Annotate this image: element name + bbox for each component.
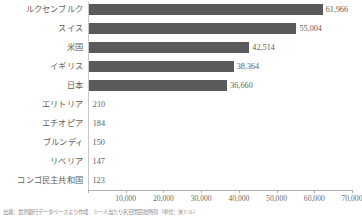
value-label: 38,364	[237, 57, 260, 76]
x-tick-mark	[277, 190, 278, 193]
x-tick-mark	[239, 190, 240, 193]
x-tick-mark	[314, 190, 315, 193]
bar	[89, 61, 234, 72]
bar	[89, 80, 227, 91]
value-label: 55,004	[299, 19, 322, 38]
bar-rows: ルクセンブルク61,966スイス55,004米国42,514イギリス38,364…	[0, 0, 360, 190]
x-tick-mark	[126, 190, 127, 193]
value-label: 123	[92, 171, 104, 190]
x-tick-mark	[352, 190, 353, 193]
category-label: イギリス	[0, 57, 83, 76]
bar-row: リベリア147	[0, 152, 360, 171]
plot-area: ルクセンブルク61,966スイス55,004米国42,514イギリス38,364…	[0, 0, 360, 190]
category-label: ブルンディ	[0, 133, 83, 152]
x-axis-ticks: 10,00020,00030,00040,00050,00060,00070,0…	[0, 190, 360, 206]
bar-row: ルクセンブルク61,966	[0, 0, 360, 19]
x-tick-label: 30,000	[191, 194, 212, 203]
x-tick-mark	[163, 190, 164, 193]
x-tick-label: 10,000	[115, 194, 136, 203]
category-label: ルクセンブルク	[0, 0, 83, 19]
category-label: エチオピア	[0, 114, 83, 133]
bar-row: ブルンディ150	[0, 133, 360, 152]
x-tick-label: 60,000	[304, 194, 325, 203]
category-label: エリトリア	[0, 95, 83, 114]
x-tick-mark	[88, 190, 89, 193]
bar-row: スイス55,004	[0, 19, 360, 38]
bar-row: イギリス38,364	[0, 57, 360, 76]
chart-footnote: 出典：世界銀行データベースより作成 ※一人当たり名目国民総所得（単位：米ドル）	[3, 208, 198, 216]
value-label: 36,660	[230, 76, 253, 95]
category-label: コンゴ民主共和国	[0, 171, 83, 190]
value-label: 42,514	[252, 38, 275, 57]
bar-row: 米国42,514	[0, 38, 360, 57]
bar-row: 日本36,660	[0, 76, 360, 95]
bar	[89, 4, 323, 15]
x-tick-mark	[201, 190, 202, 193]
category-label: 米国	[0, 38, 83, 57]
category-label: スイス	[0, 19, 83, 38]
category-label: リベリア	[0, 152, 83, 171]
bar	[89, 23, 296, 34]
bar	[89, 42, 249, 53]
value-label: 150	[93, 133, 105, 152]
category-label: 日本	[0, 76, 83, 95]
x-tick-label: 70,000	[342, 194, 362, 203]
bar-row: エチオピア184	[0, 114, 360, 133]
value-label: 147	[93, 152, 105, 171]
x-tick-label: 20,000	[153, 194, 174, 203]
bar-row: エリトリア210	[0, 95, 360, 114]
value-label: 210	[93, 95, 105, 114]
bar-row: コンゴ民主共和国123	[0, 171, 360, 190]
x-tick-label: 50,000	[266, 194, 287, 203]
x-tick-label: 40,000	[228, 194, 249, 203]
value-label: 184	[93, 114, 105, 133]
value-label: 61,966	[326, 0, 349, 19]
